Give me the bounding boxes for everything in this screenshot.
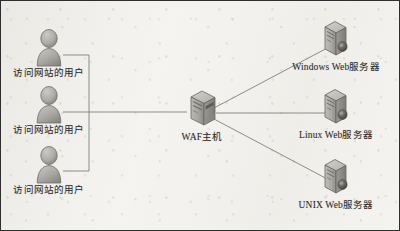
node-label-client-2: 访问网站的用户	[13, 125, 84, 136]
user-icon	[34, 84, 64, 124]
node-label-waf-host: WAF主机	[182, 132, 223, 143]
user-icon	[34, 27, 64, 67]
server-tower-icon	[185, 88, 219, 132]
network-diagram: 访问网站的用户	[0, 0, 400, 231]
node-client-1[interactable]: 访问网站的用户	[34, 27, 64, 67]
node-linux-web-server[interactable]: Linux Web服务器	[321, 87, 351, 129]
server-tower-icon	[321, 87, 351, 129]
node-windows-web-server[interactable]: Windows Web服务器	[321, 19, 351, 61]
node-client-3[interactable]: 访问网站的用户	[34, 144, 64, 184]
node-label-client-3: 访问网站的用户	[13, 185, 84, 196]
node-client-2[interactable]: 访问网站的用户	[34, 84, 64, 124]
server-tower-icon	[321, 157, 351, 199]
server-tower-icon	[321, 19, 351, 61]
node-label-unix-web-server: UNIX Web服务器	[299, 200, 374, 211]
node-label-client-1: 访问网站的用户	[13, 68, 84, 79]
node-layer: 访问网站的用户	[1, 1, 399, 230]
user-icon	[34, 144, 64, 184]
node-unix-web-server[interactable]: UNIX Web服务器	[321, 157, 351, 199]
node-label-windows-web-server: Windows Web服务器	[292, 62, 380, 73]
node-label-linux-web-server: Linux Web服务器	[299, 130, 373, 141]
node-waf-host[interactable]: WAF主机	[185, 88, 219, 132]
